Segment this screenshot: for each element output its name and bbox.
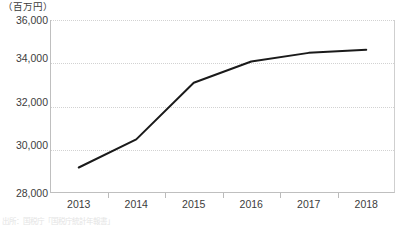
x-tick-label-2017: 2017 [279,198,339,211]
y-axis-tick-labels: 36,000 34,000 32,000 30,000 28,000 [0,0,48,227]
x-tick-label-2014: 2014 [106,198,166,211]
chart-title [150,0,310,5]
data-series-line [50,20,395,193]
x-tick-label-2018: 2018 [336,198,396,211]
x-tick-label-2015: 2015 [164,198,224,211]
series-polyline [79,50,367,168]
chart-figure: （百万円） 36,000 34,000 32,000 30,000 28,000… [0,0,408,227]
x-tick-label-2013: 2013 [49,198,109,211]
y-tick-label-28000: 28,000 [2,188,48,199]
x-tick-label-2016: 2016 [221,198,281,211]
y-tick-label-30000: 30,000 [2,140,48,151]
source-note: 出所：国税庁「国税庁統計年報書」 [2,217,232,225]
y-tick-label-34000: 34,000 [2,53,48,64]
y-tick-label-32000: 32,000 [2,97,48,108]
y-tick-label-36000: 36,000 [2,15,48,26]
